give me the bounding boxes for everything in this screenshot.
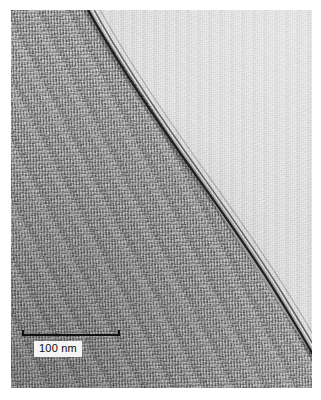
scale-bar-label: 100 nm	[34, 341, 82, 357]
scale-bar: 100 nm	[11, 326, 131, 368]
scale-bar-tick-right	[118, 330, 120, 336]
scale-bar-tick-left	[22, 330, 24, 336]
figure-page: 100 nm	[0, 0, 321, 400]
scale-bar-line	[22, 334, 120, 336]
